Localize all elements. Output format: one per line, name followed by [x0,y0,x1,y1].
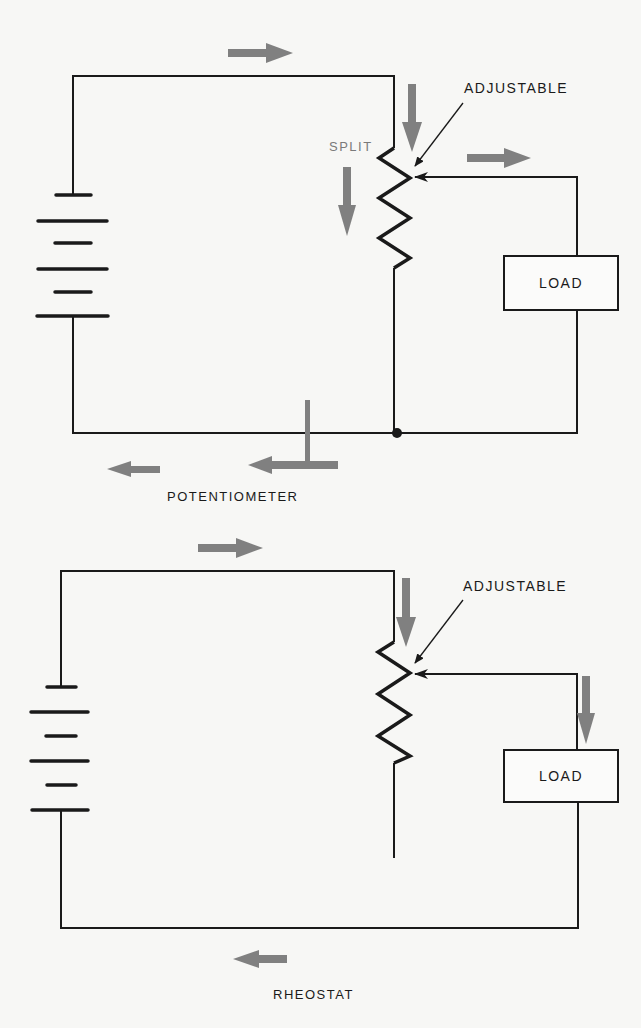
resistor-icon [379,148,410,268]
arrow-right-icon [228,43,293,63]
wiper-wire [415,674,577,749]
circuit-diagrams [0,0,641,1028]
load-wires [415,177,577,255]
bottom-wire [61,802,578,928]
load-box: LOAD [503,255,619,311]
arrow-merge-left-icon [248,400,338,474]
adjustable-label: ADJUSTABLE [464,80,568,96]
battery-icon [37,195,108,316]
arrow-down-icon [338,167,356,236]
top-wire [61,571,394,687]
load-label: LOAD [539,768,583,784]
load-box: LOAD [503,749,619,803]
potentiometer-caption: POTENTIOMETER [167,489,298,504]
adjustable-label: ADJUSTABLE [463,578,567,594]
left-bottom-wire [73,316,578,433]
arrow-left-icon [107,461,160,477]
split-label: SPLIT [329,139,373,154]
arrow-right-icon [198,538,263,558]
load-label: LOAD [539,275,583,291]
resistor-icon [378,642,410,763]
battery-icon [31,687,88,810]
arrow-down-icon [402,84,422,152]
arrow-down-icon [396,578,416,647]
arrow-right-icon [467,148,531,168]
rheostat-circuit [31,571,578,928]
adjustable-leader [415,103,463,166]
arrow-down-icon [577,676,595,744]
junction-dot [392,428,402,438]
adjustable-leader [415,600,463,663]
arrow-left-icon [233,950,287,968]
rheostat-caption: RHEOSTAT [273,987,354,1002]
potentiometer-circuit [37,76,578,438]
potentiometer-current-arrows [107,43,531,477]
